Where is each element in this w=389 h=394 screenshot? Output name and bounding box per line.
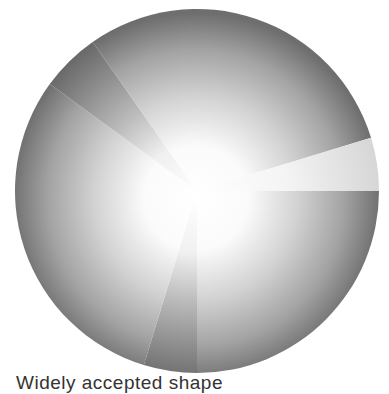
figure-caption: Widely accepted shape — [16, 372, 223, 394]
pie-slice-main-1 — [197, 191, 379, 373]
